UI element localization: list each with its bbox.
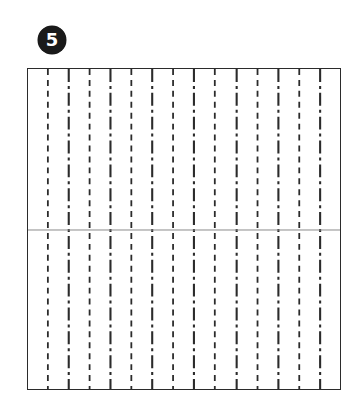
step-number-label: 5: [46, 31, 59, 49]
fold-crease-lines: [28, 69, 340, 389]
step-number-badge: 5: [38, 26, 66, 54]
diagram-frame: [27, 68, 341, 390]
